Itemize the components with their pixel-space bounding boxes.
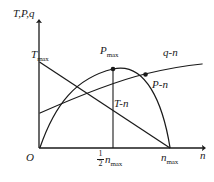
one-half-fraction: 1 2 <box>97 150 104 169</box>
half-n-subscript: max <box>111 160 122 168</box>
x-axis-caption: n <box>200 150 206 161</box>
p-max-symbol: P <box>100 44 107 56</box>
origin-label: O <box>26 152 34 163</box>
p-max-subscript: max <box>107 51 118 59</box>
fraction-numerator: 1 <box>98 150 104 158</box>
engine-characteristic-curve-figure: T,P,q n O Tmax Pmax q-n P-n T-n nmax 1 2… <box>0 0 214 182</box>
half-n-max-tail: nmax <box>105 154 122 169</box>
n-max-subscript: max <box>167 158 178 166</box>
p-max-label: Pmax <box>100 45 118 59</box>
fraction-denominator: 2 <box>98 160 104 168</box>
t-max-label: Tmax <box>31 49 49 63</box>
t-n-curve-label: T-n <box>114 98 128 109</box>
n-max-tick-label: nmax <box>161 152 178 166</box>
pmax-point-marker <box>111 67 116 72</box>
y-axis-caption: T,P,q <box>13 8 35 19</box>
q-n-curve-label: q-n <box>163 47 178 58</box>
p-n-curve-label: P-n <box>152 79 168 90</box>
t-max-subscript: max <box>37 55 48 63</box>
half-n-max-tick-label: 1 2 nmax <box>97 150 122 169</box>
qn-pn-intersection-marker <box>143 72 148 77</box>
